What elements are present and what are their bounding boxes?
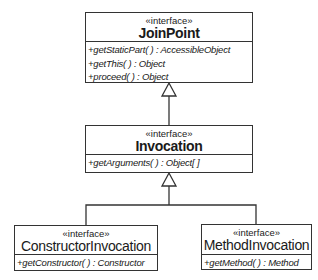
class-invocation: «interface» Invocation +getArguments( ) …	[85, 125, 253, 173]
operations-compartment: +getMethod( ) : Method	[202, 255, 311, 271]
operation: +getStaticPart( ) : AccessibleObject	[88, 43, 250, 57]
operation: +getMethod( ) : Method	[204, 256, 309, 270]
operations-compartment: +getStaticPart( ) : AccessibleObject +ge…	[86, 42, 252, 85]
class-header: «interface» ConstructorInvocation	[15, 226, 157, 255]
operation: +getArguments( ) : Object[ ]	[88, 156, 250, 170]
class-name: ConstructorInvocation	[15, 239, 157, 254]
generalization-arrow-icon	[162, 83, 176, 96]
class-header: «interface» JoinPoint	[86, 13, 252, 42]
operation: +proceed( ) : Object	[88, 70, 250, 84]
generalization-arrow-icon	[162, 173, 176, 186]
class-methodinvocation: «interface» MethodInvocation +getMethod(…	[201, 224, 312, 270]
class-joinpoint: «interface» JoinPoint +getStaticPart( ) …	[85, 12, 253, 83]
operations-compartment: +getConstructor( ) : Constructor	[15, 255, 157, 271]
operations-compartment: +getArguments( ) : Object[ ]	[86, 155, 252, 171]
class-name: MethodInvocation	[202, 238, 311, 253]
operation: +getConstructor( ) : Constructor	[17, 256, 155, 270]
class-name: Invocation	[86, 139, 252, 154]
class-name: JoinPoint	[86, 26, 252, 41]
class-header: «interface» Invocation	[86, 126, 252, 155]
class-header: «interface» MethodInvocation	[202, 225, 311, 255]
class-constructorinvocation: «interface» ConstructorInvocation +getCo…	[14, 225, 158, 271]
operation: +getThis( ) : Object	[88, 57, 250, 71]
